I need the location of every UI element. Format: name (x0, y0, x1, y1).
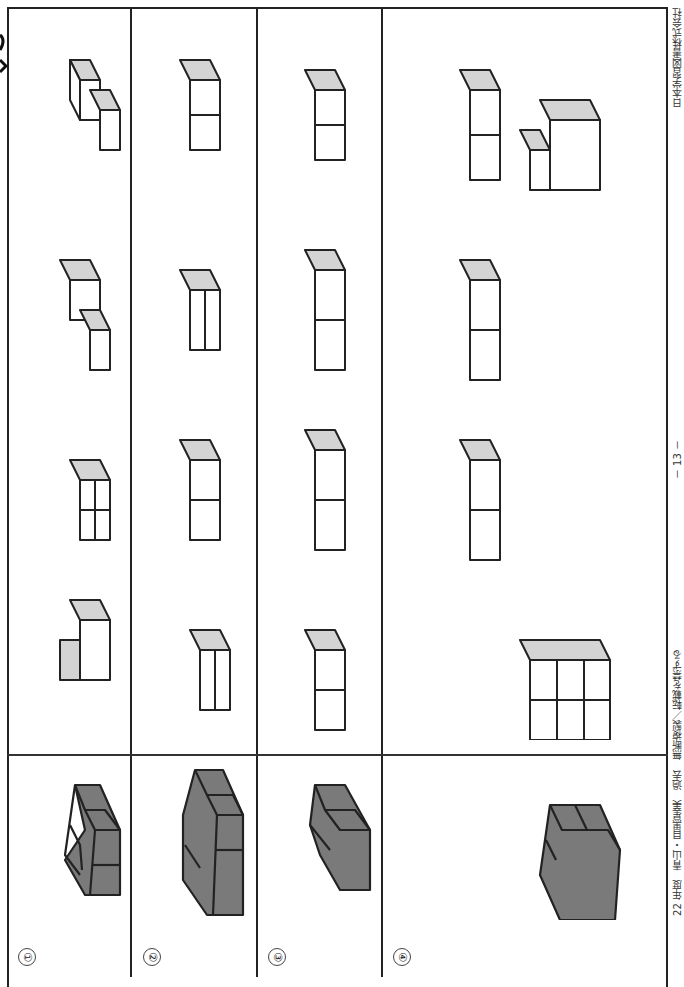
row-divider-1 (130, 7, 132, 977)
title-fragment (0, 30, 8, 90)
footer-strip: 日本学習図書株式会社 － 13 － 22 年度 青山・目黒星美 過去 無断複製／… (670, 0, 684, 973)
given-shape-3 (270, 770, 380, 920)
option-1-2 (60, 260, 110, 370)
option-3-2 (305, 250, 345, 370)
given-shape-4 (490, 770, 630, 920)
row-label-1: ① (18, 948, 36, 966)
option-2-1 (180, 60, 220, 150)
option-3-3 (305, 430, 345, 550)
row-label-2: ② (143, 948, 161, 966)
option-1-1 (70, 60, 120, 150)
option-3-4 (305, 630, 345, 730)
option-4-3 (460, 440, 500, 560)
row-3-options (275, 20, 375, 740)
row-divider-2 (256, 7, 258, 977)
row-label-4: ④ (393, 948, 411, 966)
publisher-text: 日本学習図書株式会社 (670, 8, 684, 108)
option-2-2 (180, 270, 220, 350)
option-4-4 (520, 100, 600, 190)
given-shape-1 (20, 770, 130, 920)
option-2-4 (190, 630, 230, 710)
option-4-1 (460, 70, 500, 180)
page-number: － 13 － (670, 440, 684, 479)
copyright-text: 22 年度 青山・目黒星美 過去 無断複製／転載を禁ずる (670, 650, 684, 916)
given-shape-divider (7, 754, 668, 756)
option-1-4 (60, 600, 110, 680)
option-2-3 (180, 440, 220, 540)
option-1-3 (70, 460, 110, 540)
row-2-options (150, 20, 250, 740)
option-4-5 (520, 640, 610, 740)
row-4-options (400, 20, 660, 740)
row-divider-3 (381, 7, 383, 977)
row-1-options (30, 20, 130, 740)
given-shape-2 (145, 760, 255, 930)
option-3-1 (305, 70, 345, 160)
row-label-3: ③ (268, 948, 286, 966)
option-4-2 (460, 260, 500, 380)
